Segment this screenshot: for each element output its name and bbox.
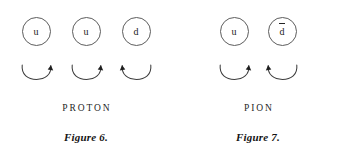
quark-symbol-pion-1: u: [232, 26, 237, 37]
figure-caption-6: Figure 6.: [0, 131, 172, 143]
particle-name-pion: PION: [172, 103, 344, 113]
figure-panel-proton: u u d PROTON Figure 6.: [0, 0, 172, 160]
quark-symbol-proton-1: u: [34, 26, 39, 37]
spin-arrow-clockwise-icon: [19, 62, 54, 82]
figure-panel-pion: u d PION Figure 7.: [172, 0, 344, 160]
figure-caption-7: Figure 7.: [172, 131, 344, 143]
quark-circle-pion-2: d: [268, 17, 297, 46]
quark-symbol-proton-3: d: [134, 26, 139, 37]
spin-arrow-clockwise-icon: [217, 62, 252, 82]
spin-row-pion: [172, 62, 344, 84]
spin-arrow-counterclockwise-icon: [265, 62, 300, 82]
spin-arrow-counterclockwise-icon: [119, 62, 154, 82]
quark-circle-proton-2: u: [72, 17, 101, 46]
spin-row-proton: [0, 62, 172, 84]
spin-arrow-clockwise-icon: [69, 62, 104, 82]
quark-circle-proton-3: d: [122, 17, 151, 46]
antiquark-symbol-pion-2: d: [280, 26, 285, 37]
quark-symbol-proton-2: u: [84, 26, 89, 37]
quark-circle-proton-1: u: [22, 17, 51, 46]
particle-name-proton: PROTON: [0, 103, 172, 113]
quark-circle-pion-1: u: [220, 17, 249, 46]
quark-row-proton: u u d: [0, 14, 172, 48]
quark-row-pion: u d: [172, 14, 344, 48]
